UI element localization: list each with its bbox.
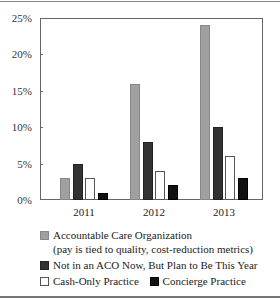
swatch-gray-icon [40, 231, 49, 240]
bar [155, 171, 165, 200]
bar [130, 84, 140, 200]
y-tick-label: 15% [0, 85, 32, 97]
bar [238, 178, 248, 200]
legend-label-aco: Accountable Care Organization [53, 229, 192, 241]
legend-label-concierge: Concierge Practice [163, 275, 246, 287]
bar [200, 25, 210, 200]
bar [60, 178, 70, 200]
legend-item-cash-concierge: Cash-Only Practice Concierge Practice [40, 274, 257, 290]
bar [73, 164, 83, 200]
x-tick-label: 2013 [199, 206, 249, 218]
legend-item-aco: Accountable Care Organization (pay is ti… [40, 228, 257, 258]
y-tick-label: 0% [0, 194, 32, 206]
swatch-white-icon [40, 277, 49, 286]
swatch-dark-icon [40, 261, 49, 270]
legend-label-plan: Not in an ACO Now, But Plan to Be This Y… [53, 259, 257, 271]
legend-label-cash: Cash-Only Practice [53, 275, 139, 287]
x-tick-label: 2011 [59, 206, 109, 218]
y-tick-label: 20% [0, 48, 32, 60]
legend: Accountable Care Organization (pay is ti… [40, 228, 257, 290]
bar [85, 178, 95, 200]
bottom-rule [0, 296, 280, 298]
bar [213, 127, 223, 200]
bar [225, 156, 235, 200]
bar [168, 185, 178, 200]
bar [143, 142, 153, 200]
legend-label-aco-sub: (pay is tied to quality, cost-reduction … [40, 242, 257, 256]
legend-item-plan: Not in an ACO Now, But Plan to Be This Y… [40, 258, 257, 274]
bar [98, 193, 108, 200]
top-rule [0, 1, 280, 2]
swatch-black-icon [150, 277, 159, 286]
y-tick-label: 10% [0, 121, 32, 133]
x-tick-label: 2012 [129, 206, 179, 218]
y-tick-label: 25% [0, 12, 32, 24]
y-tick-label: 5% [0, 158, 32, 170]
